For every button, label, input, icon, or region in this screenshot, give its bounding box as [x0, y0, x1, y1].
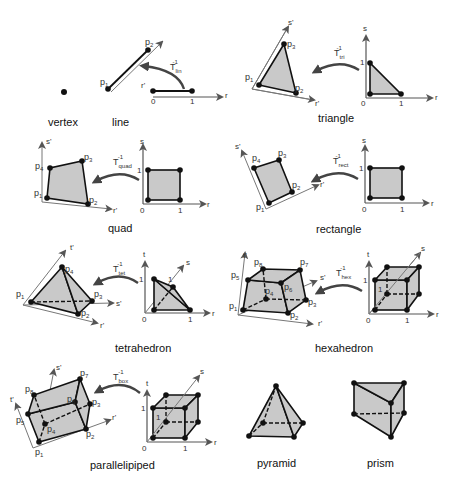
- svg-text:t': t': [243, 251, 247, 260]
- svg-text:1: 1: [183, 444, 188, 453]
- svg-text:p8: p8: [25, 384, 34, 395]
- pyramid-label: pyramid: [257, 457, 296, 469]
- svg-text:0: 0: [140, 206, 145, 215]
- svg-text:s': s': [116, 299, 122, 308]
- svg-text:0: 0: [366, 316, 371, 325]
- svg-text:p8: p8: [254, 257, 263, 268]
- svg-text:s': s': [320, 273, 326, 282]
- svg-text:p2: p2: [295, 83, 304, 94]
- svg-text:Tbox-1: Tbox-1: [113, 369, 128, 384]
- svg-text:p3: p3: [308, 297, 317, 308]
- svg-text:1: 1: [363, 276, 368, 285]
- svg-text:p2: p2: [89, 195, 98, 206]
- parallelipiped-label: parallelipiped: [90, 459, 155, 471]
- svg-text:p5: p5: [231, 270, 240, 281]
- svg-text:1: 1: [168, 275, 173, 284]
- svg-text:1: 1: [359, 164, 364, 173]
- svg-text:Ttet-1: Ttet-1: [113, 261, 126, 276]
- rectangle-element: p1 p4 p3 p2 s' r' s r 0 1 1 Trect-1 rect…: [235, 136, 434, 235]
- svg-text:Thex-1: Thex-1: [336, 265, 351, 280]
- inverse-transform-arrow: [97, 277, 138, 284]
- svg-text:p2: p2: [81, 308, 90, 319]
- svg-text:s: s: [421, 244, 425, 253]
- svg-text:1: 1: [156, 413, 161, 422]
- svg-text:0: 0: [142, 315, 147, 324]
- svg-text:r: r: [435, 93, 438, 102]
- triangle-face: [259, 44, 296, 93]
- svg-text:p1: p1: [35, 447, 44, 458]
- svg-text:p7: p7: [80, 368, 89, 379]
- svg-text:r: r: [212, 309, 215, 318]
- svg-text:t': t': [10, 395, 14, 404]
- svg-text:p3: p3: [278, 148, 287, 159]
- svg-text:p1: p1: [229, 301, 238, 312]
- svg-text:r: r: [225, 91, 228, 100]
- svg-text:1: 1: [360, 58, 365, 67]
- quad-element: p1 p4 p3 p2 s' r' s r 0 1 1 Tquad-1 quad: [34, 137, 210, 234]
- prism-element: prism: [351, 380, 407, 469]
- svg-text:1: 1: [400, 205, 405, 214]
- svg-text:1: 1: [399, 99, 404, 108]
- svg-text:s: s: [140, 137, 144, 146]
- svg-text:0: 0: [362, 205, 367, 214]
- inverse-transform-arrow: [98, 385, 140, 393]
- rectangle-face: [254, 160, 292, 203]
- svg-text:p2: p2: [290, 310, 299, 321]
- svg-text:r': r': [315, 99, 320, 108]
- svg-text:r': r': [320, 180, 325, 189]
- svg-text:s: s: [186, 258, 190, 267]
- svg-text:s': s': [288, 18, 294, 27]
- line-element: p1 p2 line r' r 0 1 Tlin-1: [100, 37, 228, 128]
- svg-text:s: s: [362, 136, 366, 145]
- svg-text:p5: p5: [16, 415, 25, 426]
- hexahedron-element: p1 p5 p8 p7 p6 p4 p3 p2 t' s' r' t s r 0…: [229, 244, 439, 354]
- svg-text:Trect-1: Trect-1: [333, 153, 349, 168]
- hexahedron-label: hexahedron: [315, 342, 373, 354]
- svg-text:p4: p4: [35, 161, 44, 172]
- svg-text:s': s': [46, 137, 52, 146]
- vertex-element: vertex: [48, 89, 78, 128]
- vertex-point: [61, 89, 67, 95]
- svg-text:r: r: [214, 438, 217, 447]
- svg-text:s': s': [56, 363, 62, 372]
- svg-text:p7: p7: [300, 257, 309, 268]
- svg-text:p3: p3: [94, 289, 103, 300]
- svg-text:t': t': [70, 243, 74, 252]
- vertex-label: vertex: [48, 116, 78, 128]
- svg-text:p2: p2: [292, 180, 301, 191]
- svg-text:t: t: [146, 379, 149, 388]
- svg-text:t: t: [367, 250, 370, 259]
- svg-text:1: 1: [139, 275, 144, 284]
- pyramid-element: pyramid: [246, 383, 306, 469]
- triangle-label: triangle: [318, 112, 354, 124]
- svg-text:r': r': [113, 206, 118, 215]
- tetrahedron-element: p1 p4 p3 p2 t' s' r' t s r 0 1 1 1 Ttet-…: [16, 243, 215, 354]
- svg-text:p3: p3: [84, 152, 93, 163]
- tetrahedron-label: tetrahedron: [115, 342, 171, 354]
- quad-face: [47, 161, 88, 204]
- svg-text:0: 0: [142, 444, 147, 453]
- svg-text:1: 1: [137, 166, 142, 175]
- prism-label: prism: [367, 457, 394, 469]
- line-label: line: [112, 116, 129, 128]
- rectangle-label: rectangle: [316, 223, 361, 235]
- svg-text:s: s: [200, 367, 204, 376]
- svg-text:p2: p2: [86, 429, 95, 440]
- quad-label: quad: [108, 222, 132, 234]
- svg-text:p4: p4: [65, 264, 74, 275]
- svg-text:s': s': [235, 142, 241, 151]
- inverse-transform-arrow: [96, 174, 139, 181]
- inverse-transform-arrow: [319, 285, 362, 292]
- inverse-transform-arrow: [316, 64, 359, 71]
- element-types-diagram: vertex p1 p2 line r' r 0 1 Tlin-1 p3 p1 …: [0, 0, 456, 491]
- svg-text:p1: p1: [100, 77, 109, 88]
- svg-text:Tquad-1: Tquad-1: [113, 154, 132, 169]
- svg-text:p3: p3: [92, 397, 101, 408]
- svg-text:0: 0: [151, 97, 156, 106]
- svg-text:1: 1: [190, 97, 195, 106]
- svg-text:p2: p2: [145, 37, 154, 48]
- svg-text:p4: p4: [252, 153, 261, 164]
- svg-text:p1: p1: [245, 72, 254, 83]
- svg-text:r': r': [112, 413, 117, 422]
- svg-text:1: 1: [378, 285, 383, 294]
